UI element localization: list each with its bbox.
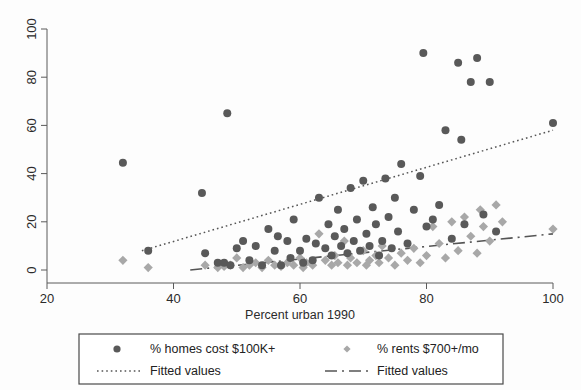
data-point-homes: [486, 78, 494, 86]
data-point-homes: [429, 215, 437, 223]
data-point-homes: [350, 237, 358, 245]
data-point-homes: [233, 244, 241, 252]
data-point-rents: [491, 200, 500, 209]
data-point-rents: [473, 249, 482, 258]
data-point-homes: [198, 189, 206, 197]
fitted-lines-group: [142, 130, 553, 270]
data-point-homes: [375, 252, 383, 260]
data-point-homes: [287, 254, 295, 262]
data-point-rents: [466, 232, 475, 241]
data-point-rents: [447, 217, 456, 226]
data-point-homes: [448, 235, 456, 243]
data-point-homes: [435, 201, 443, 209]
data-point-homes: [391, 194, 399, 202]
data-point-homes: [245, 256, 253, 264]
data-point-rents: [454, 246, 463, 255]
data-point-rents: [416, 258, 425, 267]
data-point-homes: [359, 177, 367, 185]
data-point-homes: [467, 78, 475, 86]
data-point-rents: [232, 253, 241, 262]
data-point-homes: [366, 242, 374, 250]
data-point-homes: [119, 159, 127, 167]
data-point-rents: [314, 229, 323, 238]
data-point-homes: [226, 261, 234, 269]
data-point-homes: [388, 244, 396, 252]
data-point-homes: [378, 237, 386, 245]
data-point-homes: [460, 220, 468, 228]
data-point-homes: [271, 247, 279, 255]
data-point-rents: [498, 217, 507, 226]
data-point-homes: [296, 247, 304, 255]
data-point-homes: [302, 235, 310, 243]
data-point-homes: [201, 249, 209, 257]
axis-group: [47, 29, 553, 283]
data-point-homes: [283, 237, 291, 245]
data-point-homes: [324, 220, 332, 228]
x-axis-title: Percent urban 1990: [245, 308, 355, 322]
data-point-homes: [274, 232, 282, 240]
data-point-rents: [485, 236, 494, 245]
data-point-homes: [299, 259, 307, 267]
y-tick-label: 80: [24, 70, 39, 84]
y-tick-label: 20: [24, 215, 39, 229]
data-point-homes: [369, 203, 377, 211]
data-point-homes: [397, 160, 405, 168]
data-point-homes: [492, 227, 500, 235]
data-point-homes: [454, 59, 462, 67]
y-tick-label: 100: [24, 18, 39, 40]
data-point-homes: [347, 184, 355, 192]
series-homes-markers: [119, 49, 557, 269]
data-point-rents: [397, 249, 406, 258]
data-point-homes: [353, 215, 361, 223]
data-point-homes: [315, 194, 323, 202]
data-point-homes: [223, 109, 231, 117]
data-point-rents: [422, 251, 431, 260]
scatter-plot-figure: 020406080100 20406080100 Percent urban 1…: [0, 0, 581, 390]
legend-label-homes: % homes cost $100K+: [150, 342, 275, 356]
data-point-homes: [362, 230, 370, 238]
data-point-homes: [381, 174, 389, 182]
data-point-homes: [385, 213, 393, 221]
x-tick-label: 20: [40, 291, 54, 306]
y-tick-label: 40: [24, 166, 39, 180]
data-point-homes: [356, 247, 364, 255]
x-tick-label: 80: [419, 291, 433, 306]
data-point-rents: [460, 212, 469, 221]
data-point-homes: [331, 232, 339, 240]
data-point-homes: [340, 225, 348, 233]
data-point-homes: [410, 206, 418, 214]
chart-canvas: 020406080100 20406080100 Percent urban 1…: [0, 0, 581, 390]
legend-circle-marker: [113, 345, 120, 352]
data-point-homes: [264, 225, 272, 233]
data-point-homes: [343, 249, 351, 257]
data-point-homes: [290, 215, 298, 223]
data-point-homes: [328, 252, 336, 260]
x-tick-label: 40: [166, 291, 180, 306]
data-point-homes: [394, 227, 402, 235]
data-point-rents: [548, 224, 557, 233]
data-point-rents: [384, 253, 393, 262]
data-point-homes: [337, 242, 345, 250]
data-point-homes: [321, 244, 329, 252]
data-point-rents: [441, 253, 450, 262]
data-point-homes: [549, 119, 557, 127]
legend-label-fit-homes: Fitted values: [150, 364, 221, 378]
data-point-rents: [144, 263, 153, 272]
data-point-rents: [118, 256, 127, 265]
legend-label-fit-rents: Fitted values: [377, 364, 448, 378]
data-point-homes: [441, 126, 449, 134]
data-point-rents: [390, 261, 399, 270]
data-point-homes: [457, 136, 465, 144]
legend: % homes cost $100K+ % rents $700+/mo Fit…: [79, 334, 503, 384]
data-point-homes: [416, 172, 424, 180]
data-point-homes: [479, 211, 487, 219]
data-point-homes: [372, 220, 380, 228]
y-axis-ticks: 020406080100: [24, 18, 47, 273]
data-point-rents: [435, 239, 444, 248]
data-point-homes: [312, 239, 320, 247]
x-axis-ticks: 20406080100: [40, 283, 564, 306]
data-point-homes: [473, 54, 481, 62]
data-point-homes: [258, 261, 266, 269]
y-tick-label: 0: [24, 266, 39, 273]
legend-label-rents: % rents $700+/mo: [377, 342, 479, 356]
